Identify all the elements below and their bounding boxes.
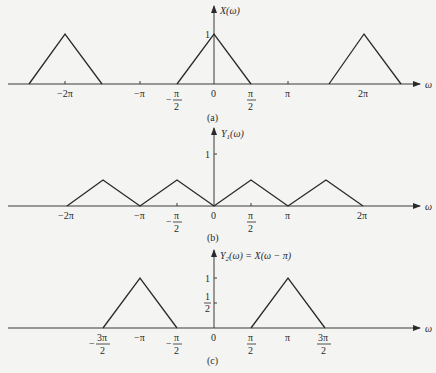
x-axis-label: ω <box>425 201 432 212</box>
ytick-1: 1 <box>205 273 210 284</box>
xtick-2pi: 2π <box>357 210 367 221</box>
triangle-2pi <box>329 34 401 84</box>
ytick-half-den: 2 <box>205 303 210 314</box>
xtick-m3pi2-sign: − <box>89 338 95 349</box>
triangle-minus-pi <box>103 278 177 328</box>
xtick-zero: 0 <box>211 332 216 343</box>
xtick-pi: π <box>285 88 290 99</box>
ytick-1: 1 <box>205 149 210 160</box>
xtick-m2pi: −2π <box>58 210 74 221</box>
xtick-zero: 0 <box>211 210 216 221</box>
xtick-pi2-num: π <box>248 332 253 343</box>
x-axis-label: ω <box>425 323 432 334</box>
xtick-mpi: −π <box>134 210 145 221</box>
xtick-mpi2-num: π <box>174 88 179 99</box>
panel-a: X(ω) ω 1 −2π −π − π 2 0 π 2 π 2π (a) <box>8 5 432 124</box>
xtick-pi2-num: π <box>248 210 253 221</box>
triangle-minus-2pi <box>29 34 102 84</box>
xtick-m3pi2-den: 2 <box>100 345 105 356</box>
xtick-m3pi2-num: 3π <box>97 332 107 343</box>
xtick-mpi2-den: 2 <box>174 101 179 112</box>
figure: X(ω) ω 1 −2π −π − π 2 0 π 2 π 2π (a) Y1(… <box>0 0 436 373</box>
xtick-mpi2-sign: − <box>166 216 172 227</box>
xtick-m2pi: −2π <box>57 88 73 99</box>
xtick-p3pi2-num: 3π <box>318 332 328 343</box>
sawtooth-triangles <box>67 180 363 206</box>
xtick-mpi2-sign: − <box>166 338 172 349</box>
ytick-half-num: 1 <box>205 291 210 302</box>
xtick-mpi: −π <box>134 332 145 343</box>
xtick-p3pi2-den: 2 <box>321 345 326 356</box>
xtick-mpi2-den: 2 <box>174 223 179 234</box>
xtick-2pi: 2π <box>358 88 368 99</box>
xtick-mpi2-sign: − <box>166 94 172 105</box>
xtick-zero: 0 <box>211 88 216 99</box>
panel-b: Y1(ω) ω 1 −2π −π − π 2 0 π 2 π 2π (b) <box>8 128 432 244</box>
x-axis-label: ω <box>425 79 432 90</box>
y-axis-label: X(ω) <box>219 5 240 17</box>
xtick-pi2-num: π <box>248 88 253 99</box>
xtick-pi2-den: 2 <box>248 223 253 234</box>
xtick-pi2-den: 2 <box>248 101 253 112</box>
xtick-pi: π <box>285 210 290 221</box>
panel-c: Y2(ω) = X(ω − π) ω 1 1 2 − 3π 2 −π − π 2… <box>8 250 432 367</box>
y-axis-label: Y2(ω) = X(ω − π) <box>220 250 292 263</box>
xtick-mpi2-den: 2 <box>174 345 179 356</box>
caption-c: (c) <box>207 355 218 367</box>
xtick-mpi2-num: π <box>174 210 179 221</box>
xtick-pi2-den: 2 <box>248 345 253 356</box>
y-axis-label: Y1(ω) <box>221 128 244 141</box>
triangle-pi <box>251 278 325 328</box>
caption-b: (b) <box>207 232 219 244</box>
ytick-1: 1 <box>205 29 210 40</box>
caption-a: (a) <box>207 112 218 124</box>
xtick-mpi2-num: π <box>174 332 179 343</box>
xtick-pi: π <box>285 332 290 343</box>
xtick-mpi: −π <box>134 88 145 99</box>
